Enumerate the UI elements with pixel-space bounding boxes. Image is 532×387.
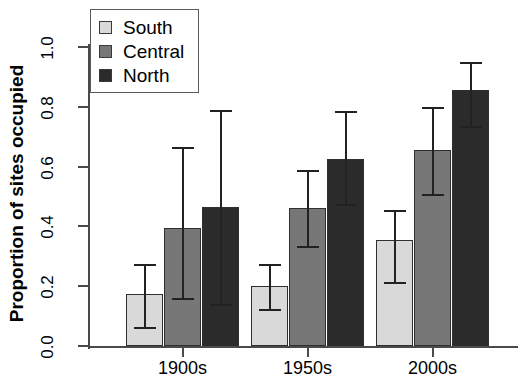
y-tick-0.4 [78, 225, 88, 227]
error-bar-stem [144, 264, 146, 327]
legend-label-south: South [123, 18, 173, 37]
y-tick-label-0.8: 0.8 [38, 86, 58, 130]
error-bar-cap-upper [210, 110, 232, 112]
x-tick-1900s [182, 348, 184, 357]
error-bar-cap-lower [134, 327, 156, 329]
legend-swatch-south [99, 21, 112, 34]
legend-item-north: North [99, 63, 184, 87]
y-tick-0.8 [78, 106, 88, 108]
error-bar-cap-upper [259, 264, 281, 266]
error-bar-stem [182, 147, 184, 298]
error-bar-cap-lower [335, 204, 357, 206]
legend-swatch-central [99, 45, 112, 58]
error-bar-cap-lower [297, 246, 319, 248]
error-bar-cap-lower [210, 304, 232, 306]
bar-north-2000s [452, 90, 489, 346]
y-tick-0.2 [78, 285, 88, 287]
error-bar-stem [220, 110, 222, 304]
error-bar-cap-upper [422, 107, 444, 109]
error-bar-cap-lower [460, 126, 482, 128]
y-tick-label-0.6: 0.6 [38, 146, 58, 190]
legend-label-north: North [123, 66, 169, 85]
error-bar-cap-lower [259, 309, 281, 311]
error-bar-cap-lower [172, 298, 194, 300]
legend-label-central: Central [123, 42, 184, 61]
error-bar-stem [470, 62, 472, 126]
x-tick-label-1950s: 1950s [248, 358, 368, 379]
legend: South Central North [90, 9, 199, 93]
error-bar-stem [307, 170, 309, 246]
error-bar-stem [269, 264, 271, 309]
error-bar-cap-upper [335, 111, 357, 113]
legend-swatch-north [99, 69, 112, 82]
y-tick-0.0 [78, 345, 88, 347]
y-tick-1.0 [78, 46, 88, 48]
error-bar-cap-upper [134, 264, 156, 266]
y-tick-label-0.2: 0.2 [38, 265, 58, 309]
legend-item-south: South [99, 15, 184, 39]
x-tick-label-2000s: 2000s [373, 358, 493, 379]
error-bar-cap-lower [422, 194, 444, 196]
error-bar-cap-upper [172, 147, 194, 149]
error-bar-stem [394, 210, 396, 282]
error-bar-stem [345, 111, 347, 204]
bar-chart-figure: Proportion of sites occupied 0.00.20.40.… [0, 0, 532, 387]
y-tick-label-0.4: 0.4 [38, 205, 58, 249]
error-bar-cap-upper [384, 210, 406, 212]
x-tick-1950s [307, 348, 309, 357]
y-axis-title: Proportion of sites occupied [0, 0, 34, 387]
legend-item-central: Central [99, 39, 184, 63]
error-bar-cap-upper [297, 170, 319, 172]
x-axis-line [88, 346, 518, 348]
y-tick-0.6 [78, 166, 88, 168]
error-bar-cap-lower [384, 282, 406, 284]
y-tick-label-0.0: 0.0 [38, 325, 58, 369]
error-bar-stem [432, 107, 434, 194]
x-tick-label-1900s: 1900s [123, 358, 243, 379]
error-bar-cap-upper [460, 62, 482, 64]
x-tick-2000s [432, 348, 434, 357]
y-tick-label-1.0: 1.0 [38, 26, 58, 70]
